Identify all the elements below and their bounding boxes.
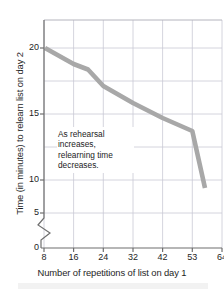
bottom-caption-strip: [18, 283, 208, 289]
x-tick-label-42: 42: [152, 252, 174, 262]
y-tick-label-0: 0: [23, 242, 39, 252]
annotation-line-4: decreases.: [58, 160, 132, 170]
chart-annotation-note: As rehearsal increases, relearning time …: [57, 127, 134, 173]
x-tick-label-group: 8 16 24 32 42 53 64: [44, 252, 222, 266]
x-tick-label-53: 53: [181, 252, 203, 262]
y-axis-title: Time (in minutes) to relearn list on day…: [14, 19, 25, 249]
x-tick-label-24: 24: [92, 252, 114, 262]
x-tick-label-32: 32: [122, 252, 144, 262]
annotation-line-1: As rehearsal: [58, 129, 132, 139]
annotation-line-3: relearning time: [58, 150, 132, 160]
x-tick-label-64: 64: [211, 252, 224, 262]
y-tick-label-15: 15: [23, 108, 39, 118]
y-tick-label-10: 10: [23, 174, 39, 184]
x-tick-label-8: 8: [33, 252, 55, 262]
x-tick-label-16: 16: [63, 252, 85, 262]
x-axis-title: Number of repetitions of list on day 1: [0, 267, 224, 278]
y-tick-label-20: 20: [23, 42, 39, 52]
y-tick-label-5: 5: [23, 207, 39, 217]
annotation-line-2: increases,: [58, 139, 132, 149]
chart-figure: 20 15 10 5 0 Time (in minutes) to relear…: [0, 0, 224, 292]
